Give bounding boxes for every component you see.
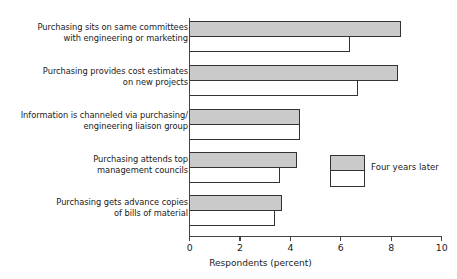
bar-1-later — [189, 21, 401, 37]
x-tick-label-10: 10 — [436, 242, 448, 253]
bar-5-later — [189, 195, 282, 211]
x-tick-8 — [391, 236, 392, 241]
y-axis-line — [189, 18, 190, 237]
x-tick-label-8: 8 — [388, 242, 394, 253]
bar-3-later — [189, 109, 300, 125]
bar-1-before — [189, 36, 350, 52]
x-tick-label-6: 6 — [338, 242, 344, 253]
bar-3-before — [189, 124, 300, 140]
x-tick-label-4: 4 — [287, 242, 293, 253]
x-tick-10 — [441, 236, 442, 241]
bar-2-before — [189, 80, 358, 96]
x-tick-6 — [340, 236, 341, 241]
legend-label: Four years later — [371, 162, 439, 172]
x-tick-2 — [239, 236, 240, 241]
category-label-2: Purchasing provides cost estimates on ne… — [0, 66, 188, 88]
bar-chart: Purchasing sits on same committees with … — [0, 0, 457, 279]
bar-4-later — [189, 152, 297, 168]
bar-5-before — [189, 210, 275, 226]
legend-swatch-gray-half — [331, 156, 364, 171]
x-tick-label-0: 0 — [187, 242, 193, 253]
bar-4-before — [189, 167, 280, 183]
x-axis-title: Respondents (percent) — [0, 258, 457, 268]
legend-swatch-four-years-later — [330, 155, 365, 187]
category-label-1: Purchasing sits on same committees with … — [0, 22, 188, 44]
plot-area — [189, 18, 441, 236]
x-axis-line — [189, 236, 441, 237]
bar-2-later — [189, 65, 398, 81]
category-label-3: Information is channeled via purchasing/… — [0, 110, 188, 132]
category-label-5: Purchasing gets advance copies of bills … — [0, 197, 188, 219]
x-tick-0 — [189, 236, 190, 241]
x-tick-label-2: 2 — [237, 242, 243, 253]
category-label-4: Purchasing attends top management counci… — [0, 154, 188, 176]
x-tick-4 — [290, 236, 291, 241]
